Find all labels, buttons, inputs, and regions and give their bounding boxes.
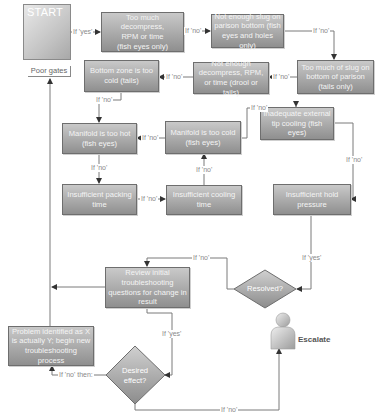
edge-label: If 'no' (192, 254, 210, 262)
edge-label: If 'yes' (72, 28, 93, 36)
edge-label: If 'no' (141, 134, 159, 142)
node-text: decompress, RPM, (196, 68, 266, 78)
node-text: (tails only) (302, 82, 370, 92)
desired-effect-label: Desired effect? (108, 366, 162, 385)
start-box: START (23, 4, 71, 60)
edge-label: If 'no' (90, 164, 108, 172)
node-text: troubleshooting process (11, 346, 91, 365)
node-text: time (67, 200, 131, 210)
node-insufficient-hold: Insufficient hold pressure (273, 184, 351, 215)
flowchart-canvas: START Poor gates Too much decompress, RP… (0, 0, 377, 419)
node-text: Manifold is too hot (69, 129, 131, 139)
node-text: questions for change in (108, 288, 187, 298)
node-too-much-slug: Too much of slug on bottom of parison (t… (297, 60, 374, 94)
node-text: (fish eyes) (69, 139, 131, 149)
edge-label: If 'yes' (301, 254, 322, 262)
escalate-label: Escalate (298, 335, 330, 344)
node-text: RPM or time (104, 32, 181, 42)
edge-label: If 'no' (345, 156, 363, 164)
edge-label: If 'no' (272, 73, 290, 81)
node-text: Insufficient packing (67, 190, 131, 200)
edge-label: If 'no' (95, 96, 113, 104)
node-text: Review initial (108, 268, 187, 278)
node-text: Not enough (196, 59, 266, 69)
edge-label: If 'no' (250, 104, 268, 112)
edge-label: If 'no' (184, 27, 202, 35)
node-manifold-too-hot: Manifold is too hot (fish eyes) (62, 123, 137, 154)
node-text: is actually Y; begin new (11, 336, 91, 346)
edge-label: If 'no' (140, 195, 158, 203)
node-text: troubleshooting (108, 278, 187, 288)
node-text: pressure (286, 200, 339, 210)
node-text: (fish eyes) (170, 138, 235, 148)
decision-text: effect? (108, 376, 162, 386)
node-text: Too much decompress, (104, 13, 181, 32)
poor-gates-label: Poor gates (28, 66, 71, 77)
node-problem-identified: Problem identified as X is actually Y; b… (8, 326, 94, 366)
node-text: tip cooling (fish eyes) (263, 119, 331, 138)
node-text: Insufficient cooling (173, 190, 235, 200)
edge-label: If 'yes' (161, 330, 182, 338)
node-text: parison bottom (fish (214, 21, 281, 31)
node-text: Bottom zone is too (90, 66, 153, 76)
node-text: Insufficient hold (286, 190, 339, 200)
node-insufficient-packing: Insufficient packing time (62, 184, 137, 215)
edge-label: If 'no' (165, 73, 183, 81)
resolved-label: Resolved? (236, 284, 294, 294)
decision-text: Desired (108, 366, 162, 376)
edge-label: If 'no' then: (58, 371, 94, 379)
edge-label: If 'no' (312, 27, 330, 35)
node-text: Too much of slug on (302, 63, 370, 73)
edge-label: If 'no' (195, 166, 213, 174)
node-too-much-decompress: Too much decompress, RPM or time (fish e… (101, 12, 184, 52)
node-manifold-too-cold: Manifold is too cold (fish eyes) (165, 121, 241, 154)
node-bottom-zone-cold: Bottom zone is too cold (tails) (84, 60, 159, 92)
node-not-enough-slug: Not enough slug on parison bottom (fish … (211, 14, 284, 48)
node-insufficient-cooling: Insufficient cooling time (166, 185, 242, 215)
edge-label: If 'no' (220, 406, 238, 414)
node-text: eyes and holes only) (214, 31, 281, 50)
person-icon (271, 313, 295, 349)
node-text: bottom of parison (302, 72, 370, 82)
node-text: Not enough slug on (214, 12, 281, 22)
node-text: or time (drool or tails) (196, 78, 266, 97)
node-text: Inadequate external (263, 109, 331, 119)
node-text: time (173, 200, 235, 210)
node-review-initial: Review initial troubleshooting questions… (105, 267, 190, 308)
start-label: START (27, 6, 63, 18)
node-text: Problem identified as X (11, 327, 91, 337)
node-not-enough-decompress: Not enough decompress, RPM, or time (dro… (193, 62, 269, 94)
node-text: cold (tails) (90, 76, 153, 86)
node-text: result (108, 297, 187, 307)
node-inadequate-tip-cooling: Inadequate external tip cooling (fish ey… (260, 107, 334, 140)
node-text: Manifold is too cold (170, 128, 235, 138)
node-text: (fish eyes only) (104, 42, 181, 52)
